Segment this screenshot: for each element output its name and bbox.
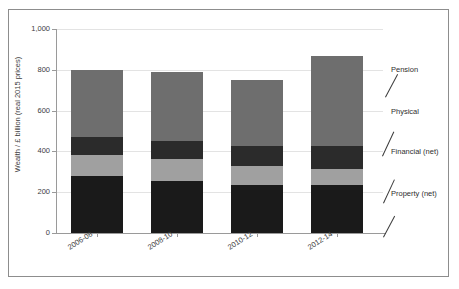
bar-2006-08[interactable] <box>71 70 123 233</box>
x-tick-mark-2008-10 <box>177 233 178 237</box>
bar-segment-physical-2006-08[interactable] <box>71 137 123 155</box>
x-tick-mark-2010-12 <box>257 233 258 237</box>
bar-segment-pension-2010-12[interactable] <box>231 80 283 146</box>
bar-segment-pension-2008-10[interactable] <box>151 72 203 141</box>
y-tick-label-800: 800 <box>6 66 50 74</box>
chart-figure: Wealth / £ billion (real 2015 prices) 1,… <box>0 0 459 289</box>
y-tick-label-600: 600 <box>6 107 50 115</box>
bar-segment-property-net-2006-08[interactable] <box>71 176 123 233</box>
y-tick-label-0: 0 <box>6 229 50 237</box>
y-axis-tick-labels: 1,000 800 600 400 200 0 <box>0 0 50 289</box>
bar-segment-pension-2006-08[interactable] <box>71 70 123 137</box>
legend-label-physical: Physical <box>391 107 419 116</box>
legend-label-financial: Financial (net) <box>391 147 439 156</box>
bar-segment-physical-2008-10[interactable] <box>151 141 203 159</box>
bar-segment-property-net-2010-12[interactable] <box>231 185 283 233</box>
y-tick-label-1000: 1,000 <box>6 25 50 33</box>
y-tick-label-200: 200 <box>6 188 50 196</box>
x-tick-mark-2012-14 <box>337 233 338 237</box>
bar-segment-financial-net-2006-08[interactable] <box>71 155 123 176</box>
bar-2008-10[interactable] <box>151 72 203 233</box>
legend-label-pension: Pension <box>391 65 418 74</box>
y-tick-label-400: 400 <box>6 147 50 155</box>
bar-2012-14[interactable] <box>311 56 363 233</box>
bar-segment-pension-2012-14[interactable] <box>311 56 363 146</box>
bar-segment-financial-net-2008-10[interactable] <box>151 159 203 181</box>
plot-area <box>57 29 383 233</box>
gridline-1000 <box>57 29 383 30</box>
bar-segment-financial-net-2010-12[interactable] <box>231 166 283 185</box>
bar-2010-12[interactable] <box>231 80 283 233</box>
bar-segment-financial-net-2012-14[interactable] <box>311 169 363 185</box>
legend-label-property: Property (net) <box>391 189 437 198</box>
bar-segment-physical-2012-14[interactable] <box>311 146 363 169</box>
x-tick-mark-2006-08 <box>97 233 98 237</box>
bar-segment-property-net-2012-14[interactable] <box>311 185 363 233</box>
bar-segment-physical-2010-12[interactable] <box>231 146 283 166</box>
bar-segment-property-net-2008-10[interactable] <box>151 181 203 233</box>
